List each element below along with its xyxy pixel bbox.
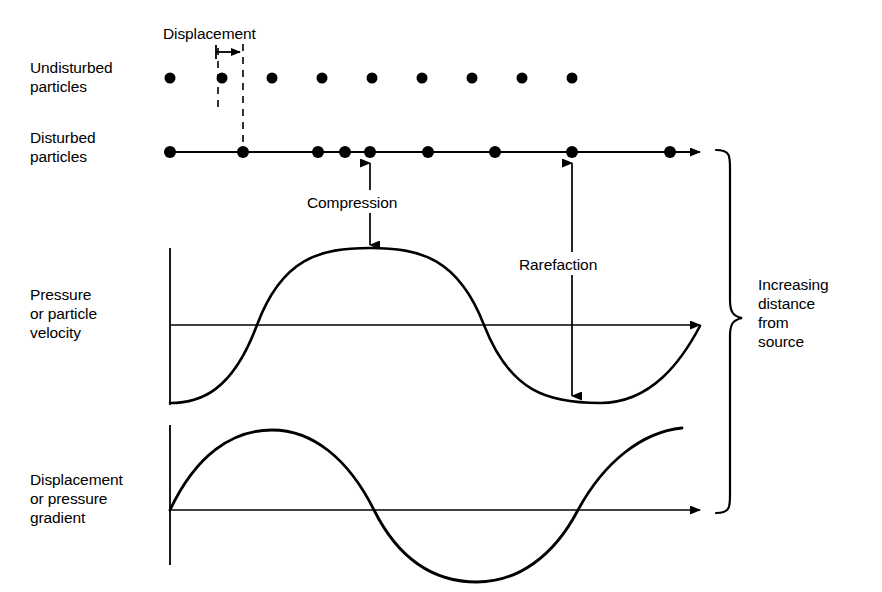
- disturbed-dot: [164, 146, 176, 158]
- undisturbed-dot: [367, 73, 378, 84]
- disturbed-dot: [312, 146, 324, 158]
- label-undisturbed-particles: Undisturbed particles: [30, 58, 112, 96]
- displacement-wave-curve: [170, 428, 682, 582]
- disturbed-dot: [664, 146, 676, 158]
- displacement-measure-annotation: [216, 44, 243, 150]
- disturbed-dot: [422, 146, 434, 158]
- label-rarefaction: Rarefaction: [519, 255, 597, 274]
- increasing-distance-brace: [716, 150, 742, 513]
- undisturbed-dot: [267, 73, 278, 84]
- label-pressure-or-particle-velocity: Pressure or particle velocity: [30, 285, 97, 342]
- undisturbed-dot: [567, 73, 578, 84]
- disturbed-particle-row: [164, 146, 700, 158]
- pressure-wave-plot: [170, 248, 700, 405]
- curly-brace-path: [716, 150, 742, 513]
- undisturbed-particle-row: [165, 73, 578, 84]
- undisturbed-dot: [467, 73, 478, 84]
- undisturbed-dot: [517, 73, 528, 84]
- label-increasing-distance-from-source: Increasing distance from source: [758, 275, 829, 351]
- disturbed-dot: [566, 146, 578, 158]
- label-compression: Compression: [307, 193, 397, 212]
- disturbed-dot: [339, 146, 351, 158]
- disturbed-dot: [489, 146, 501, 158]
- label-displacement-or-pressure-gradient: Displacement or pressure gradient: [30, 470, 123, 527]
- undisturbed-dot: [417, 73, 428, 84]
- wave-diagram-canvas: [0, 0, 882, 592]
- disturbed-dot: [237, 146, 249, 158]
- label-disturbed-particles: Disturbed particles: [30, 128, 95, 166]
- undisturbed-dot: [317, 73, 328, 84]
- label-displacement-title: Displacement: [163, 24, 256, 43]
- displacement-wave-plot: [170, 425, 700, 582]
- sound-wave-diagram: Undisturbed particles Disturbed particle…: [0, 0, 882, 592]
- undisturbed-dot: [165, 73, 176, 84]
- disturbed-dot: [364, 146, 376, 158]
